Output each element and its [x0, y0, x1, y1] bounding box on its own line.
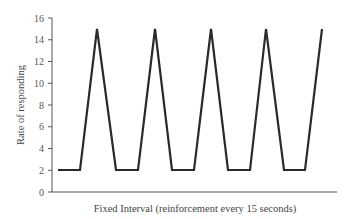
y-tick-label: 8 [39, 100, 44, 111]
y-tick-label: 0 [39, 187, 44, 198]
chart: 0246810121416 Rate of responding Fixed I… [0, 0, 354, 219]
y-tick-label: 2 [39, 165, 44, 176]
y-tick-label: 14 [34, 34, 44, 45]
y-tick-label: 4 [39, 143, 44, 154]
y-tick-label: 10 [34, 78, 44, 89]
x-axis-title: Fixed Interval (reinforcement every 15 s… [94, 203, 297, 215]
y-tick-label: 16 [34, 13, 44, 24]
series-line [58, 29, 322, 170]
y-axis-title: Rate of responding [15, 64, 26, 145]
y-axis: 0246810121416 [34, 13, 52, 198]
y-tick-label: 6 [39, 121, 44, 132]
y-tick-label: 12 [34, 56, 44, 67]
